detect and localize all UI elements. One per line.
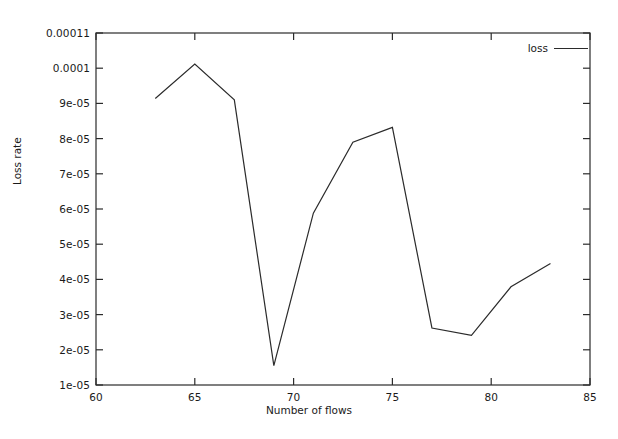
x-tick-label: 65 [188,391,202,403]
y-tick-label: 0.00011 [46,27,90,39]
y-tick-label: 1e-05 [59,379,90,391]
plot-area [0,0,618,439]
legend-entry-label: loss [528,42,548,54]
x-tick-label: 85 [583,391,597,403]
x-tick-label: 70 [287,391,301,403]
chart-figure: 1e-052e-053e-054e-055e-056e-057e-058e-05… [0,0,618,439]
legend-line-sample [554,48,588,49]
y-tick-label: 5e-05 [59,238,90,250]
x-tick-label: 60 [89,391,103,403]
x-tick-label: 75 [386,391,400,403]
data-series-group [155,64,550,366]
y-tick-label: 7e-05 [59,168,90,180]
y-tick-label: 8e-05 [59,133,90,145]
y-tick-label: 6e-05 [59,203,90,215]
x-axis-label: Number of flows [0,404,618,416]
y-tick-label: 2e-05 [59,344,90,356]
chart-legend: loss [492,40,588,56]
y-axis-label: Loss rate [11,137,23,185]
y-tick-label: 4e-05 [59,273,90,285]
y-tick-label: 3e-05 [59,309,90,321]
y-tick-label: 0.0001 [53,62,90,74]
data-series-line [155,64,550,366]
x-tick-label: 80 [484,391,498,403]
y-tick-label: 9e-05 [59,97,90,109]
